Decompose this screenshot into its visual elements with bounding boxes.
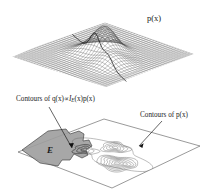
- figure-container: p(x) Contours of q(x)∝IE(x)p(x) Contours…: [0, 0, 209, 191]
- surface-plot-top: [12, 23, 198, 89]
- q-contours-prefix: Contours of q(x): [16, 95, 64, 103]
- density-label-px: p(x): [147, 14, 161, 23]
- surface-mesh: [12, 23, 198, 89]
- region-label-E: E: [47, 146, 53, 155]
- p-contours-annotation: Contours of p(x): [140, 112, 188, 119]
- q-contours-annotation: Contours of q(x)∝IE(x)p(x): [16, 96, 95, 103]
- q-contours-suffix: (x)p(x): [75, 95, 95, 103]
